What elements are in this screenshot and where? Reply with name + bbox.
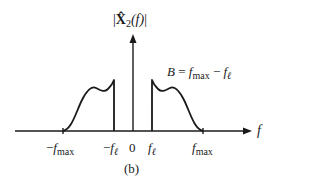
tick-label-fmax: fmax [192, 141, 213, 157]
tick-label-neg-fl: −fℓ [103, 141, 118, 157]
frequency-axis-label: f [257, 124, 261, 138]
frequency-axis-arrow-icon [243, 128, 252, 135]
tick-label-zero: 0 [129, 141, 136, 154]
spectrum-right-lobe [152, 80, 203, 131]
spectrum-left-lobe [63, 80, 114, 131]
figure-caption: (b) [124, 162, 139, 175]
tick-label-neg-fmax: −fmax [46, 141, 74, 157]
magnitude-axis-arrow-icon [130, 34, 137, 43]
tick-label-fl: fℓ [148, 141, 156, 157]
magnitude-axis-label: |X̂2(f)| [113, 13, 147, 29]
bandwidth-annotation: B = fmax − fℓ [167, 65, 231, 81]
